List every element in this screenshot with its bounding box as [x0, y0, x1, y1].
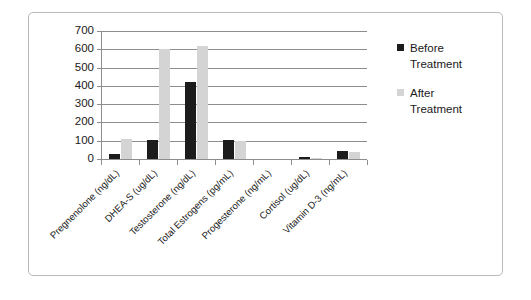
legend-item-before[interactable]: Before Treatment	[397, 41, 497, 72]
chart-container: 7006005004003002001000 Pregnenolone (ng/…	[28, 12, 503, 276]
bar-group	[215, 31, 253, 159]
category-axis-tick	[215, 160, 216, 165]
y-axis-tick-label: 300	[75, 98, 94, 110]
category-axis-label: Pregnenolone (ng/dL)	[48, 168, 120, 240]
category-axis-tick	[367, 160, 368, 165]
bar[interactable]	[159, 49, 170, 159]
y-axis-tick-label: 400	[75, 80, 94, 92]
legend-label-before: Before Treatment	[410, 41, 482, 72]
y-axis-tick-label: 100	[75, 135, 94, 147]
category-axis-label: Vitamin D-3 (ng/mL)	[281, 168, 348, 235]
bar[interactable]	[197, 46, 208, 159]
y-axis-tick-label: 200	[75, 117, 94, 129]
category-axis-tick	[329, 160, 330, 165]
bar-group	[101, 31, 139, 159]
bar[interactable]	[185, 82, 196, 159]
category-axis-label: DHEA-S (ug/dL)	[103, 168, 159, 224]
y-axis-tick-label: 600	[75, 44, 94, 56]
legend-item-after[interactable]: After Treatment	[397, 86, 497, 117]
y-axis-tick-label: 0	[88, 153, 94, 165]
y-axis-tick-label: 500	[75, 62, 94, 74]
bar-group	[329, 31, 367, 159]
category-axis-tick	[291, 160, 292, 165]
bar-group	[291, 31, 329, 159]
bars-layer	[101, 31, 367, 159]
category-axis-label: Total Estrogens (pg/mL)	[156, 168, 235, 247]
chart-legend: Before Treatment After Treatment	[397, 41, 497, 131]
bar-group	[253, 31, 291, 159]
plot-area: 7006005004003002001000	[101, 31, 367, 159]
bar[interactable]	[121, 139, 132, 159]
category-axis-ticks	[101, 160, 367, 166]
category-axis-label: Progesterone (ng/mL)	[200, 168, 273, 241]
black-square-icon	[397, 44, 404, 51]
bar-group	[177, 31, 215, 159]
category-axis-tick	[253, 160, 254, 165]
category-axis-tick	[177, 160, 178, 165]
bar[interactable]	[299, 157, 310, 159]
category-axis-tick	[139, 160, 140, 165]
y-axis-tick-label: 700	[75, 25, 94, 37]
bar[interactable]	[147, 140, 158, 159]
bar-group	[139, 31, 177, 159]
gray-square-icon	[397, 89, 404, 96]
bar[interactable]	[235, 141, 246, 159]
bar[interactable]	[311, 158, 322, 159]
legend-label-after: After Treatment	[410, 86, 482, 117]
bar[interactable]	[109, 154, 120, 159]
bar[interactable]	[223, 140, 234, 159]
category-axis-label: Cortisol (ug/dL)	[258, 168, 311, 221]
bar[interactable]	[337, 151, 348, 159]
bar[interactable]	[349, 152, 360, 159]
category-axis-tick	[101, 160, 102, 165]
category-axis-label: Testosterone (ng/dL)	[128, 168, 197, 237]
